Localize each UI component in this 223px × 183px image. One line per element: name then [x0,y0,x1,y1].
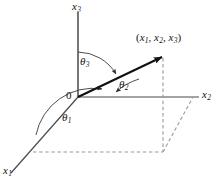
x2-axis-label: x2 [202,89,211,102]
vector-angles-figure: x3 x2 x1 0 θ3 θ2 θ1 (x1, x2, x3) [0,0,223,183]
x2-axis-label-sub: 2 [207,93,211,102]
figure-canvas [0,0,223,183]
theta2-label: θ2 [119,79,128,92]
theta3-label-sub: 3 [85,60,89,69]
x1-axis-label: x1 [3,165,12,178]
parallelogram-right-edge [163,97,193,152]
x1-axis-line [11,97,78,173]
point-coordinates-label: (x1, x2, x3) [136,32,181,45]
theta1-label-sub: 1 [67,116,71,125]
projection-parallelogram [33,58,193,152]
x1-axis-label-sub: 1 [8,169,12,178]
theta1-label: θ1 [62,112,71,125]
point-label-x1-base: x [140,31,145,43]
theta3-label: θ3 [80,56,89,69]
x3-axis-label-sub: 3 [77,5,81,14]
origin-label: 0 [66,90,72,101]
theta2-label-sub: 2 [124,83,128,92]
x3-axis-label: x3 [72,1,81,14]
point-label-close-paren: ) [177,31,181,43]
